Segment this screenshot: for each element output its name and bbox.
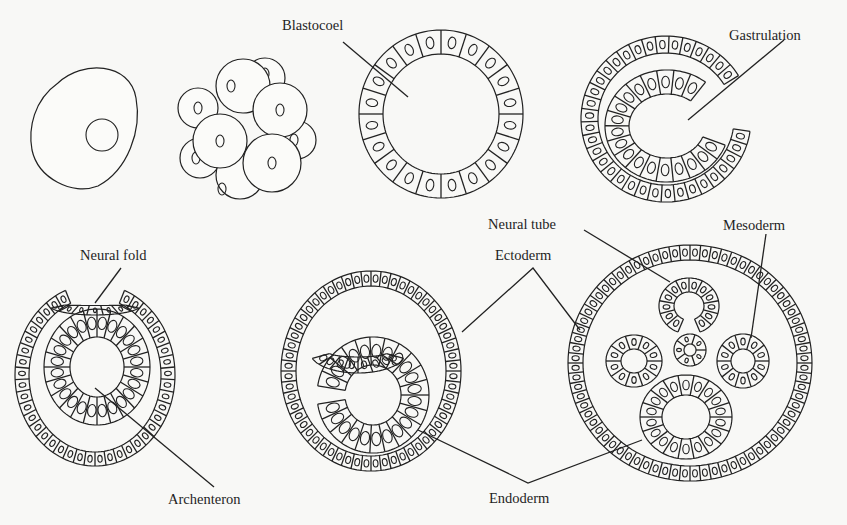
label-mesoderm: Mesoderm: [723, 218, 785, 233]
label-neural-fold: Neural fold: [80, 248, 146, 263]
label-gastrulation: Gastrulation: [729, 28, 801, 43]
label-endoderm: Endoderm: [489, 491, 549, 506]
label-archenteron: Archenteron: [168, 492, 240, 507]
neurula-figure: [15, 290, 175, 466]
label-neural-tube: Neural tube: [488, 217, 556, 232]
zygote-figure: [31, 68, 138, 189]
label-blastocoel: Blastocoel: [282, 18, 343, 33]
gastrula-figure: [581, 36, 750, 202]
morula-figure: [178, 58, 316, 199]
neural-tube-forming-figure: [281, 271, 461, 471]
embryo-development-diagram: Blastocoel Gastrulation Neural fold Arch…: [0, 0, 847, 525]
label-ectoderm: Ectoderm: [495, 248, 551, 263]
germ-layers-figure: [568, 245, 812, 481]
blastula-figure: [359, 30, 523, 198]
